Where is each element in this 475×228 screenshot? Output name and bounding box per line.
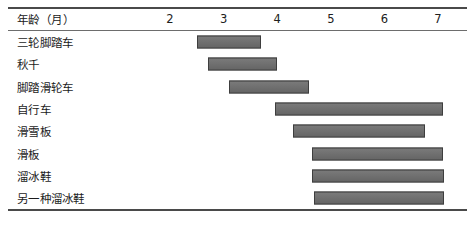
axis-tick-7: 7 — [428, 12, 448, 26]
task-label: 另一种溜冰鞋 — [17, 190, 85, 206]
task-row: 滑雪板 — [0, 120, 475, 142]
task-label: 溜冰鞋 — [17, 168, 51, 184]
task-row: 秋千 — [0, 53, 475, 75]
task-row: 溜冰鞋 — [0, 165, 475, 187]
axis-tick-6: 6 — [374, 12, 394, 26]
axis-tick-5: 5 — [321, 12, 341, 26]
task-bar — [314, 192, 445, 205]
task-label: 滑雪板 — [17, 123, 51, 139]
task-bar — [229, 80, 309, 93]
axis-header-row: 年龄（月） 234567 — [0, 10, 475, 30]
task-label: 滑板 — [17, 146, 40, 162]
task-bar — [312, 147, 443, 160]
top-divider — [8, 7, 467, 9]
task-bar — [208, 58, 278, 71]
axis-tick-4: 4 — [267, 12, 287, 26]
axis-tick-3: 3 — [214, 12, 234, 26]
task-label: 三轮脚踏车 — [17, 34, 74, 50]
task-row: 三轮脚踏车 — [0, 31, 475, 53]
task-label: 脚踏滑轮车 — [17, 79, 74, 95]
task-row: 脚踏滑轮车 — [0, 76, 475, 98]
task-label: 自行车 — [17, 101, 51, 117]
task-label: 秋千 — [17, 56, 40, 72]
task-bar — [293, 125, 424, 138]
task-bar — [197, 36, 261, 49]
task-bar — [275, 103, 444, 116]
gantt-chart: 年龄（月） 234567 三轮脚踏车秋千脚踏滑轮车自行车滑雪板滑板溜冰鞋另一种溜… — [0, 0, 475, 228]
task-row: 自行车 — [0, 98, 475, 120]
task-row: 滑板 — [0, 142, 475, 164]
task-row-container: 三轮脚踏车秋千脚踏滑轮车自行车滑雪板滑板溜冰鞋另一种溜冰鞋 — [0, 31, 475, 209]
axis-title: 年龄（月） — [17, 11, 74, 27]
task-bar — [312, 169, 444, 182]
task-row: 另一种溜冰鞋 — [0, 187, 475, 209]
axis-tick-2: 2 — [160, 12, 180, 26]
